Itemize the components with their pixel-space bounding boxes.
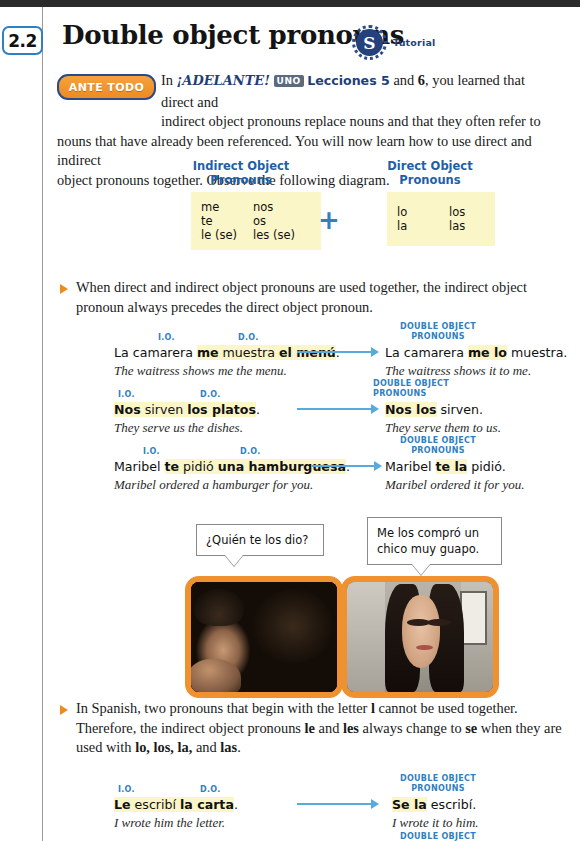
arrow-line <box>297 408 371 410</box>
example-english: I wrote him the letter. <box>114 815 225 831</box>
r2-pre2: Therefore, the indirect object pronouns <box>76 720 305 736</box>
example-english: Maribel ordered a hamburger for you. <box>114 477 313 493</box>
result-spanish: Se la escribí. <box>392 797 476 812</box>
photo-detail <box>347 582 385 692</box>
arrow-line <box>297 803 371 805</box>
tutorial-label: Tutorial <box>393 37 435 48</box>
io-label: I.O. <box>118 390 135 399</box>
intro-and: and <box>390 72 418 88</box>
indirect-heading-line2: Pronouns <box>176 174 306 188</box>
intro-line-2: indirect object pronouns replace nouns a… <box>161 112 557 132</box>
io-cell: te <box>201 214 253 228</box>
io-label: I.O. <box>118 785 135 794</box>
r2-post2: always change to <box>359 720 465 736</box>
table-row: lolos <box>397 205 485 219</box>
do-label: D.O. <box>200 390 221 399</box>
arrow-head <box>374 461 382 471</box>
photo-frame-left <box>185 576 343 698</box>
direct-heading-line2: Pronouns <box>365 174 495 188</box>
table-row: le (se)les (se) <box>201 228 311 242</box>
io-pronoun: Nos <box>114 402 141 417</box>
result-spanish: Maribel te la pidió. <box>385 459 506 474</box>
intro-pre: In <box>161 72 177 88</box>
res-part: muestra. <box>507 345 567 360</box>
r2-end: when they are <box>477 720 561 736</box>
double-object-label: DOUBLE OBJECT PRONOUNS <box>378 436 498 455</box>
arrow-head <box>371 404 379 414</box>
textbook-page: 2.2 Double object pronouns S Tutorial AN… <box>0 0 580 841</box>
direct-object-heading: Direct Object Pronouns <box>365 160 495 187</box>
io-cell: le (se) <box>201 228 253 242</box>
io-cell: os <box>253 214 266 228</box>
ex-part: La camarera <box>114 345 197 360</box>
photo-detail <box>188 659 241 696</box>
speech-bubble-left-text: ¿Quién te los dio? <box>206 533 308 547</box>
io-pronoun: Le <box>114 797 131 812</box>
example-english: The waitress shows me the menu. <box>114 363 287 379</box>
io-cell: nos <box>253 200 273 214</box>
res-part: pidió. <box>467 459 505 474</box>
bubble-tail <box>412 564 430 575</box>
section-number-badge: 2.2 <box>2 26 43 55</box>
dop-line-2: PRONOUNS <box>373 389 493 399</box>
man-photo <box>191 582 337 692</box>
dop-line-1: DOUBLE OBJECT <box>373 379 493 389</box>
speech-bubble-right-line2: chico muy guapo. <box>377 541 492 557</box>
rule-two-text: In Spanish, two pronouns that begin with… <box>76 699 566 758</box>
io-label: I.O. <box>158 333 175 342</box>
io-cell: me <box>201 200 253 214</box>
arrow-head <box>371 799 379 809</box>
transform-arrow-icon <box>297 404 379 414</box>
bullet-marker-icon <box>60 284 68 294</box>
do-cell: la <box>397 219 449 233</box>
pronoun-les: les <box>343 720 359 736</box>
speech-bubble-left: ¿Quién te los dio? <box>196 524 324 556</box>
transform-arrow-icon <box>297 347 379 357</box>
tutorial-link[interactable]: S Tutorial <box>352 25 435 60</box>
supersite-s-icon: S <box>352 25 387 60</box>
indirect-object-heading: Indirect Object Pronouns <box>176 160 306 187</box>
transform-arrow-icon <box>297 799 379 809</box>
rule-one-line-1: When direct and indirect object pronouns… <box>76 278 556 298</box>
r2-pre3: used with <box>76 739 135 755</box>
double-pronoun: Nos los <box>385 402 437 417</box>
ex-part: pidió <box>179 459 218 474</box>
dop-line-2: PRONOUNS <box>378 446 498 456</box>
do-label: D.O. <box>238 333 259 342</box>
do-cell: lo <box>397 205 449 219</box>
io-cell: les (se) <box>253 228 295 242</box>
ex-part: . <box>256 402 260 417</box>
example-english: They serve us the dishes. <box>114 420 243 436</box>
pronoun-las: las <box>220 739 237 755</box>
dop-line-1: DOUBLE OBJECT <box>378 436 498 446</box>
direct-heading-line1: Direct Object <box>365 160 495 174</box>
speech-bubble-right-line1: Me los compró un <box>377 525 492 541</box>
do-label: D.O. <box>240 447 261 456</box>
intro-line-1: In ¡ADELANTE! UNO Lecciones 5 and 6, you… <box>161 71 557 112</box>
ex-part: muestra <box>219 345 279 360</box>
example-spanish: Le escribí la carta. <box>114 797 238 812</box>
double-object-label: DOUBLE OBJECT PRONOUNS <box>373 379 493 398</box>
page-top-edge <box>0 0 580 7</box>
adelante-title: ¡ADELANTE! <box>177 73 270 88</box>
speech-bubble-right: Me los compró un chico muy guapo. <box>367 517 502 565</box>
table-row: menos <box>201 200 311 214</box>
result-spanish: La camarera me lo muestra. <box>385 345 567 360</box>
io-pronoun: te <box>165 459 180 474</box>
result-english: They serve them to us. <box>385 420 501 436</box>
rule-two-line-3: used with lo, los, la, and las. <box>76 738 566 758</box>
indirect-heading-line1: Indirect Object <box>176 160 306 174</box>
arrow-line <box>312 465 374 467</box>
double-object-label: DOUBLE OBJECT PRONOUNS <box>378 322 498 341</box>
double-pronoun: me lo <box>468 345 507 360</box>
arrow-line <box>297 351 371 353</box>
photo-detail <box>194 589 244 626</box>
transform-arrow-icon <box>312 461 382 471</box>
woman-photo <box>347 582 493 692</box>
do-noun: la carta <box>180 797 234 812</box>
r2-mid3: and <box>192 739 220 755</box>
photo-frame-right <box>341 576 499 698</box>
table-row: lalas <box>397 219 485 233</box>
result-spanish: Nos los sirven. <box>385 402 483 417</box>
ex-part: Maribel <box>114 459 165 474</box>
